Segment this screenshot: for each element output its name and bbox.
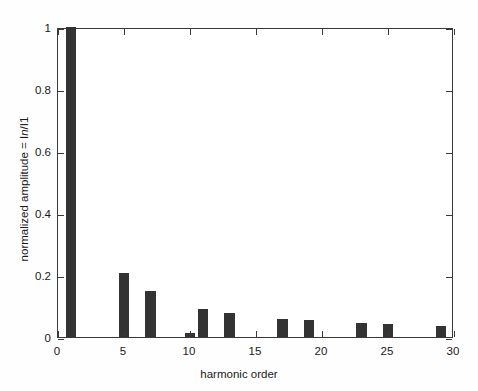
bar <box>145 291 156 337</box>
y-axis-tick-label: 0.8 <box>9 84 51 96</box>
x-axis-tick-top <box>124 29 125 35</box>
bar <box>66 27 77 337</box>
y-axis-tick-label: 0 <box>9 332 51 344</box>
y-axis-tick <box>58 153 64 154</box>
x-axis-tick <box>58 331 59 337</box>
y-axis-tick <box>58 277 64 278</box>
x-axis-tick-label: 30 <box>447 345 460 357</box>
x-axis-tick <box>256 331 257 337</box>
x-axis-tick <box>190 331 191 337</box>
x-axis-tick-label: 20 <box>315 345 328 357</box>
y-axis-tick-right <box>446 153 452 154</box>
bar <box>277 319 288 337</box>
y-axis-tick <box>58 91 64 92</box>
x-axis-tick <box>124 331 125 337</box>
y-axis-tick <box>58 215 64 216</box>
x-axis-tick <box>454 331 455 337</box>
y-axis-tick-right <box>446 91 452 92</box>
x-axis-tick-label: 25 <box>381 345 394 357</box>
x-axis-tick-top <box>388 29 389 35</box>
x-axis-tick-label: 15 <box>249 345 262 357</box>
y-axis-label-suffix: /I1 <box>18 117 30 130</box>
bar <box>304 320 315 337</box>
y-axis-tick-right <box>446 29 452 30</box>
x-axis-tick-top <box>454 29 455 35</box>
y-axis-tick-label: 1 <box>9 22 51 34</box>
figure-canvas: harmonic order normalized amplitude = In… <box>0 0 478 391</box>
y-axis-tick <box>58 29 64 30</box>
y-axis-tick-right <box>446 339 452 340</box>
y-axis-tick-label: 0.6 <box>9 146 51 158</box>
plot-area <box>57 28 453 338</box>
bar <box>224 313 235 337</box>
y-axis-tick-label: 0.4 <box>9 208 51 220</box>
y-axis-tick-right <box>446 277 452 278</box>
x-axis-tick-top <box>322 29 323 35</box>
bar <box>119 273 130 337</box>
y-axis-label-italic: n <box>18 129 30 135</box>
y-axis-tick-label: 0.2 <box>9 270 51 282</box>
x-axis-tick-top <box>190 29 191 35</box>
y-axis-tick-right <box>446 215 452 216</box>
x-axis-tick <box>388 331 389 337</box>
x-axis-tick-label: 0 <box>54 345 60 357</box>
x-axis-tick-top <box>256 29 257 35</box>
x-axis-tick <box>322 331 323 337</box>
x-axis-tick-label: 5 <box>120 345 126 357</box>
x-axis-tick-label: 10 <box>183 345 196 357</box>
bar <box>436 326 447 337</box>
x-axis-label: harmonic order <box>0 368 478 380</box>
bar <box>198 309 209 337</box>
bar <box>356 323 367 337</box>
y-axis-tick <box>58 339 64 340</box>
